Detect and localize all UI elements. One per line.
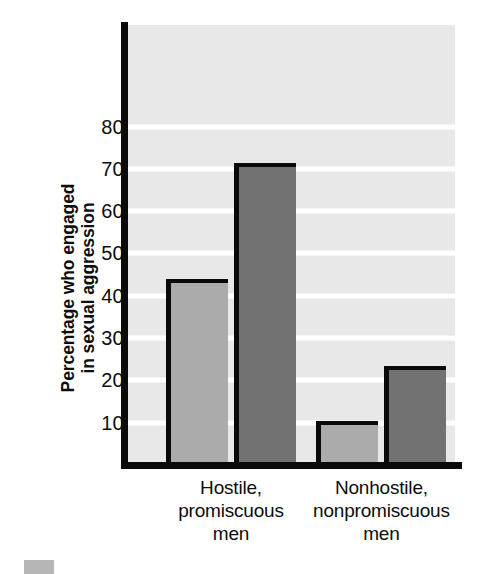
legend-swatch (24, 560, 54, 574)
gridline (128, 124, 455, 129)
y-axis-tick-label: 20 (66, 370, 124, 390)
bar (166, 279, 228, 465)
y-axis-tick-labels: 1020304050607080 (62, 0, 124, 570)
y-axis-tick-label: 30 (66, 328, 124, 348)
x-axis-category-label-1: Nonhostile, nonpromiscuous men (276, 476, 486, 546)
bar (234, 163, 296, 466)
x-axis-line (121, 462, 462, 469)
y-axis-line (121, 22, 128, 468)
bar (384, 366, 446, 465)
bar (316, 421, 378, 465)
plot-area (128, 25, 455, 465)
y-axis-tick-label: 10 (66, 413, 124, 433)
y-axis-tick-label: 40 (66, 286, 124, 306)
y-axis-tick-label: 50 (66, 243, 124, 263)
y-axis-tick-label: 70 (66, 159, 124, 179)
y-axis-tick-label: 80 (66, 117, 124, 137)
y-axis-tick-label: 60 (66, 201, 124, 221)
